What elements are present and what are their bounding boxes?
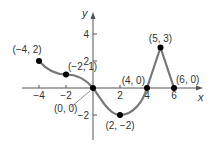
point-label: (6, 0) (176, 74, 199, 85)
data-point (171, 85, 177, 91)
x-tick-label: −2 (60, 90, 72, 101)
data-point (90, 85, 96, 91)
point-label: (0, 0) (54, 103, 77, 114)
data-point (36, 58, 42, 64)
data-point (63, 72, 69, 78)
point-label: (−2, 1) (68, 61, 97, 72)
point-label: (−4, 2) (12, 44, 41, 55)
data-point (117, 112, 123, 118)
x-tick-label: 2 (117, 90, 123, 101)
x-tick-label: −4 (33, 90, 45, 101)
data-point (158, 45, 164, 51)
point-label: (5, 3) (149, 33, 172, 44)
y-tick-label: 4 (83, 29, 89, 40)
x-axis-label: x (197, 91, 204, 103)
x-tick-label: 6 (171, 90, 177, 101)
function-graph: −4−224642−2 x y (−4, 2)(−2, 1)(0, 0)(2, … (0, 0, 213, 149)
point-label: (4, 0) (122, 75, 145, 86)
y-axis-label: y (81, 7, 89, 19)
y-tick-label: −2 (78, 110, 90, 121)
x-axis-arrow-icon (196, 86, 203, 91)
point-label: (2, −2) (105, 120, 134, 131)
y-axis-arrow-icon (91, 12, 96, 19)
